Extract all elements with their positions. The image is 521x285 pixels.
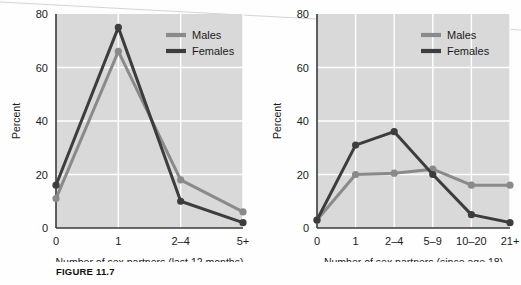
x-tick-label: 5+	[237, 235, 250, 247]
x-tick-label: 0	[314, 235, 320, 247]
y-tick-label: 60	[297, 62, 309, 74]
x-tick-label: 0	[53, 235, 59, 247]
x-tick-label: 5–9	[424, 235, 442, 247]
y-tick-label: 0	[303, 222, 309, 234]
data-point-males	[115, 48, 122, 55]
y-tick-label: 80	[36, 8, 48, 20]
data-point-females	[429, 171, 436, 178]
figure-page: 020406080012–45+PercentNumber of sex par…	[0, 0, 521, 285]
data-point-females	[313, 216, 320, 223]
data-point-males	[506, 182, 513, 189]
x-tick-label: 21+	[501, 235, 520, 247]
data-point-males	[239, 208, 246, 215]
x-axis-title: Number of sex partners (last 12 months)	[56, 256, 244, 262]
y-tick-label: 40	[297, 115, 309, 127]
y-tick-label: 20	[297, 169, 309, 181]
legend-label-males: Males	[192, 29, 222, 41]
data-point-females	[52, 182, 59, 189]
x-tick-label: 2–4	[385, 235, 403, 247]
data-point-males	[352, 171, 359, 178]
data-point-females	[239, 219, 246, 226]
data-point-females	[115, 24, 122, 31]
y-tick-label: 40	[36, 115, 48, 127]
data-point-females	[177, 198, 184, 205]
data-point-males	[52, 195, 59, 202]
y-tick-label: 20	[36, 169, 48, 181]
legend-label-females: Females	[447, 45, 490, 57]
x-tick-label: 10–20	[456, 235, 487, 247]
figure-caption: FIGURE 11.7	[56, 266, 115, 277]
line-chart-right: 020406080012–45–910–2021+PercentNumber o…	[261, 0, 521, 262]
x-axis-title: Number of sex partners (since age 18)	[324, 256, 503, 262]
x-tick-label: 1	[115, 235, 121, 247]
legend-label-females: Females	[192, 45, 235, 57]
y-tick-label: 80	[297, 8, 309, 20]
y-tick-label: 60	[36, 62, 48, 74]
chart-panel-right: 020406080012–45–910–2021+PercentNumber o…	[261, 0, 521, 285]
y-tick-label: 0	[42, 222, 48, 234]
data-point-females	[352, 141, 359, 148]
legend-label-males: Males	[447, 29, 477, 41]
data-point-females	[506, 219, 513, 226]
data-point-males	[468, 182, 475, 189]
data-point-males	[177, 176, 184, 183]
data-point-females	[391, 128, 398, 135]
data-point-females	[468, 211, 475, 218]
chart-panel-left: 020406080012–45+PercentNumber of sex par…	[0, 0, 260, 285]
line-chart-left: 020406080012–45+PercentNumber of sex par…	[0, 0, 260, 262]
data-point-males	[391, 170, 398, 177]
x-tick-label: 1	[353, 235, 359, 247]
y-axis-title: Percent	[10, 103, 22, 139]
x-tick-label: 2–4	[171, 235, 189, 247]
y-axis-title: Percent	[271, 103, 283, 139]
